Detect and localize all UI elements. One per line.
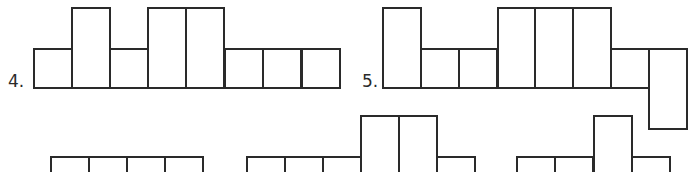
figure-8 xyxy=(0,0,689,172)
grid-square xyxy=(593,115,633,172)
grid-square xyxy=(554,156,594,172)
grid-square xyxy=(516,156,556,172)
grid-square xyxy=(631,156,671,172)
